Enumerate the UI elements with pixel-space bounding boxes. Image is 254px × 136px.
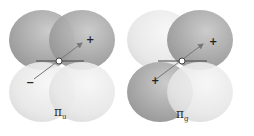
orbital-diagram-canvas: + − πu + + πg [0, 0, 254, 136]
pi-g-diagram: + + πg [127, 10, 233, 123]
tip-sign: + [86, 34, 94, 45]
tail-sign: + [151, 75, 159, 86]
pi-u-diagram: + − πu [9, 10, 115, 122]
tip-sign: + [209, 36, 217, 47]
tail-sign: − [26, 77, 34, 88]
center-node [179, 58, 185, 64]
center-node [56, 58, 62, 64]
